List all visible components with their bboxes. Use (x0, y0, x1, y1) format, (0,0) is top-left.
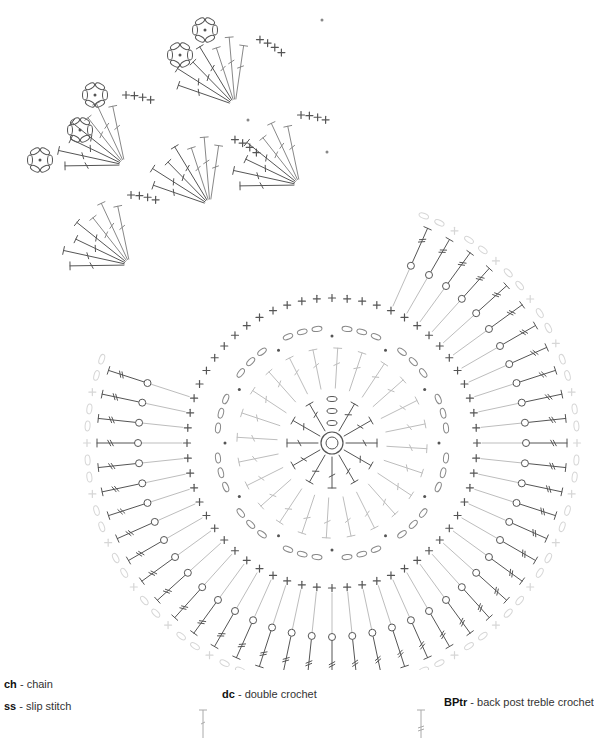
legend-desc: slip stitch (26, 700, 71, 712)
legend-item-chain: ch - chain (4, 678, 53, 690)
legend-abbr: ss (4, 700, 16, 712)
legend-item-slip-stitch: ss - slip stitch (4, 700, 71, 712)
legend-desc: back post treble crochet (477, 696, 594, 708)
legend-item-back-post-treble: BPtr - back post treble crochet (444, 696, 594, 708)
legend-desc: double crochet (245, 688, 317, 700)
crochet-chart-diagram (0, 0, 584, 670)
legend-desc: chain (27, 678, 53, 690)
double-crochet-icon (196, 708, 210, 738)
back-post-treble-icon (414, 708, 428, 738)
legend-abbr: BPtr (444, 696, 467, 708)
legend-item-double-crochet: dc - double crochet (222, 688, 317, 700)
legend-abbr: ch (4, 678, 17, 690)
legend-abbr: dc (222, 688, 235, 700)
stitch-legend: ch - chain ss - slip stitch dc - double … (0, 670, 584, 736)
